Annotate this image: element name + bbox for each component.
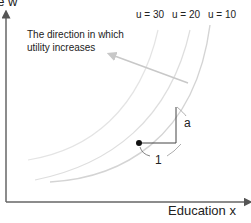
curve-label-u10: u = 10 <box>208 9 236 20</box>
rise-label: a <box>184 116 191 130</box>
run-brace-right <box>167 144 181 156</box>
direction-annotation: The direction in which utility increases <box>27 28 147 54</box>
curve-label-u30: u = 30 <box>136 9 164 20</box>
x-axis-label: Education x <box>168 203 236 218</box>
run-label: 1 <box>155 153 162 167</box>
curve-label-u20: u = 20 <box>172 9 200 20</box>
tangent-point <box>136 140 142 146</box>
y-axis-label: ge w <box>0 0 17 9</box>
